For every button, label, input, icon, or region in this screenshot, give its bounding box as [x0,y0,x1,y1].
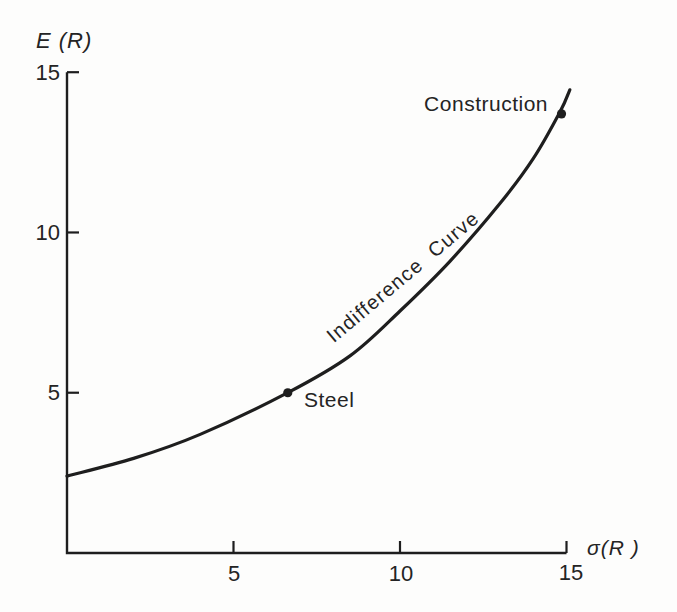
y-tick-label-5: 5 [24,381,60,404]
plot-svg [0,0,677,612]
steel-point-dot [283,388,292,397]
x-tick-label-5: 5 [212,562,256,585]
axis-lines [67,72,567,553]
construction-point-label: Construction [424,93,548,115]
x-tick-label-15: 15 [549,561,593,584]
figure-canvas: E (R) σ(R ) 15 10 5 5 10 15 Steel Constr… [0,0,677,612]
y-tick-label-10: 10 [24,221,60,244]
y-axis-title: E (R) [36,29,92,52]
y-tick-label-15: 15 [24,61,60,84]
construction-point-dot [557,109,566,118]
x-axis-title: σ(R ) [587,537,640,559]
indifference-curve-line [67,90,570,476]
x-tick-label-10: 10 [379,562,423,585]
steel-point-label: Steel [304,389,354,411]
